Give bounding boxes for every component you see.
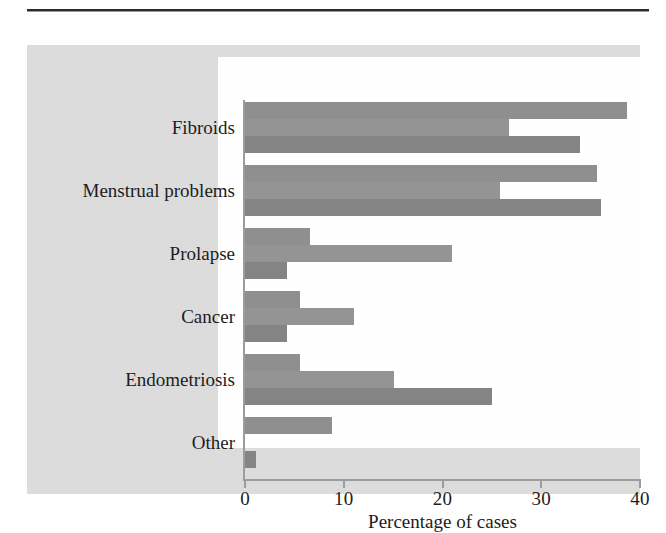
category-label: Fibroids <box>172 117 243 139</box>
category-label: Other <box>192 432 243 454</box>
bar <box>245 388 492 405</box>
x-tick-mark <box>343 481 345 488</box>
bar <box>245 325 287 342</box>
x-tick-mark <box>639 481 641 488</box>
bar <box>245 119 509 136</box>
bar <box>245 308 354 325</box>
top-horizontal-rule <box>27 9 649 11</box>
bar <box>245 291 300 308</box>
bar <box>245 199 601 216</box>
bar <box>245 371 394 388</box>
bar <box>245 245 452 262</box>
category-label: Endometriosis <box>125 369 243 391</box>
bar <box>245 262 287 279</box>
x-tick-label: 20 <box>433 488 452 510</box>
x-tick-label: 30 <box>532 488 551 510</box>
x-tick-mark <box>540 481 542 488</box>
bar <box>245 165 597 182</box>
bar <box>245 417 332 434</box>
bar <box>245 136 580 153</box>
x-tick-label: 40 <box>630 488 649 510</box>
bars-plot-area <box>245 102 640 477</box>
x-tick-label: 10 <box>334 488 353 510</box>
x-tick-mark <box>244 481 246 488</box>
chart-figure-panel: FibroidsMenstrual problemsProlapseCancer… <box>27 45 640 494</box>
bar <box>245 182 500 199</box>
category-axis-labels: FibroidsMenstrual problemsProlapseCancer… <box>27 45 243 494</box>
x-tick-label: 0 <box>240 488 250 510</box>
bar <box>245 354 300 371</box>
category-label: Prolapse <box>170 243 243 265</box>
category-label: Menstrual problems <box>82 180 243 202</box>
x-axis-title: Percentage of cases <box>245 511 640 533</box>
x-tick-mark <box>442 481 444 488</box>
bar <box>245 451 256 468</box>
bar <box>245 102 627 119</box>
bar <box>245 228 310 245</box>
category-label: Cancer <box>181 306 243 328</box>
